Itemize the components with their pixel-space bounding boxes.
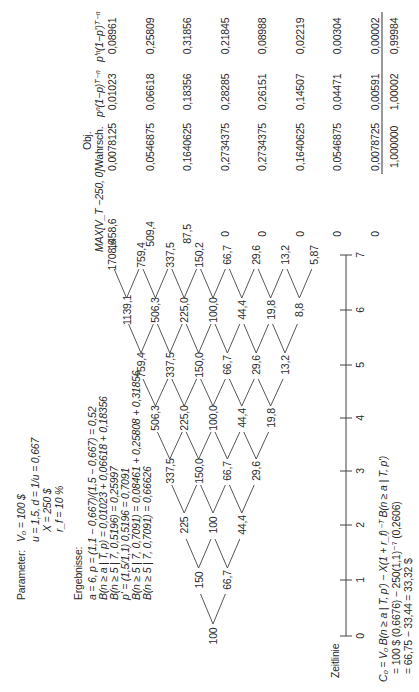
tree-node: 150,0 bbox=[194, 352, 205, 377]
tree-node: 19,8 bbox=[266, 300, 277, 320]
timeline-tick-label: 0 bbox=[355, 633, 366, 639]
table-cell: 0 bbox=[295, 231, 306, 237]
tree-node: 225,0 bbox=[179, 297, 190, 322]
table-cell: 0,1640625 bbox=[295, 123, 306, 171]
table-cell: 0,26151 bbox=[257, 74, 268, 111]
table-cell: 0,06618 bbox=[145, 74, 156, 111]
tree-node: 29,6 bbox=[251, 355, 262, 375]
table-cell: 0,0078125 bbox=[107, 123, 118, 171]
tree-node: 5,87 bbox=[309, 245, 320, 265]
header-ppn: p'ⁿ(1−p')ᵀ⁻ⁿ bbox=[94, 12, 105, 62]
table-cell: 0,28285 bbox=[220, 74, 231, 111]
tree-node: 150,0 bbox=[194, 458, 205, 483]
timeline-tick-label: 1 bbox=[355, 577, 366, 583]
tree-node: 13,2 bbox=[280, 355, 291, 375]
table-cell: 0,00002 bbox=[370, 18, 381, 55]
header-pn: pⁿ(1−p)ᵀ⁻ⁿ bbox=[94, 71, 105, 117]
header-max: MAX[V_T −250, 0] bbox=[94, 169, 105, 252]
tree-node: 44,4 bbox=[237, 515, 248, 535]
table-cell: 1458,6 bbox=[107, 219, 118, 250]
binomial-tree-lines bbox=[0, 0, 419, 692]
table-cell: 87,5 bbox=[182, 224, 193, 244]
tree-node: 66,7 bbox=[222, 570, 233, 590]
tree-node: 337,5 bbox=[165, 242, 176, 267]
table-cell: 0,2734375 bbox=[220, 123, 231, 171]
table-sum: 0,99984 bbox=[389, 18, 400, 55]
table-cell: 0,18356 bbox=[182, 74, 193, 111]
tree-node: 44,4 bbox=[237, 300, 248, 320]
table-cell: 0 bbox=[220, 231, 231, 237]
tree-node: 100,0 bbox=[208, 297, 219, 322]
table-cell: 0,0078725 bbox=[370, 123, 381, 171]
formula-line-2: = 100 $ (0,6676) − 250(1,1)⁻⁷ (0,2606) bbox=[391, 501, 402, 674]
table-cell: 0 bbox=[332, 231, 343, 237]
timeline-tick-label: 2 bbox=[355, 522, 366, 528]
timeline-tick-label: 3 bbox=[355, 468, 366, 474]
tree-node: 100,0 bbox=[208, 405, 219, 430]
timeline-tick-label: 4 bbox=[355, 415, 366, 421]
tree-node: 1139,1 bbox=[122, 295, 133, 325]
tree-node: 337,5 bbox=[165, 352, 176, 377]
table-cell: 0,00304 bbox=[332, 18, 343, 55]
timeline-label: Zeitlinie bbox=[330, 644, 341, 678]
table-cell: 0,0546875 bbox=[145, 123, 156, 171]
tree-node: 100 bbox=[208, 628, 219, 645]
table-cell: 0,31856 bbox=[182, 18, 193, 55]
tree-node: 66,7 bbox=[222, 355, 233, 375]
table-cell: 0,21845 bbox=[220, 18, 231, 55]
table-cell: 0,04471 bbox=[332, 74, 343, 111]
tree-node: 759,4 bbox=[136, 352, 147, 377]
tree-node: 19,8 bbox=[266, 408, 277, 428]
tree-node: 337,5 bbox=[165, 458, 176, 483]
tree-node: 100 bbox=[208, 517, 219, 534]
table-cell: 0,08961 bbox=[107, 18, 118, 55]
table-cell: 0 bbox=[370, 231, 381, 237]
table-cell: 0,1640625 bbox=[182, 123, 193, 171]
timeline-tick-label: 7 bbox=[355, 252, 366, 258]
table-cell: 0,02219 bbox=[295, 18, 306, 55]
table-cell: 0,14507 bbox=[295, 74, 306, 111]
binomial-option-pricing-page: Parameter: V₀ = 100 $ u = 1,5, d = 1/u =… bbox=[0, 0, 419, 692]
table-cell: 0,00591 bbox=[370, 74, 381, 111]
table-sum: 1,000000 bbox=[389, 126, 400, 168]
tree-node: 506,3 bbox=[150, 297, 161, 322]
table-cell: 509,4 bbox=[145, 221, 156, 246]
table-cell: 0,2734375 bbox=[257, 123, 268, 171]
tree-node: 13,2 bbox=[280, 245, 291, 265]
table-cell: 0,01023 bbox=[107, 74, 118, 111]
tree-node: 225,0 bbox=[179, 405, 190, 430]
tree-node: 225 bbox=[179, 517, 190, 534]
tree-node: 44,4 bbox=[237, 408, 248, 428]
tree-node: 150,2 bbox=[194, 242, 205, 267]
formula-line-1: C₀ = V₀ B(n ≥ a | T, p') − X(1 + r_f)⁻ᵀ … bbox=[378, 456, 389, 682]
timeline-tick-label: 6 bbox=[355, 307, 366, 313]
tree-node: 29,6 bbox=[251, 461, 262, 481]
timeline-tick-label: 5 bbox=[355, 362, 366, 368]
table-cell: 0,08988 bbox=[257, 18, 268, 55]
tree-node: 506,3 bbox=[150, 405, 161, 430]
tree-node: 150 bbox=[194, 572, 205, 589]
tree-node: 66,7 bbox=[222, 461, 233, 481]
header-obj: Obj. bbox=[82, 132, 93, 150]
tree-node: 29,6 bbox=[251, 245, 262, 265]
tree-node: 8,8 bbox=[294, 303, 305, 317]
table-cell: 0 bbox=[257, 231, 268, 237]
table-cell: 0,0546875 bbox=[332, 123, 343, 171]
header-probability: Wahrsch. bbox=[94, 127, 105, 169]
formula-line-3: = 66,75 − 33,44 = 33,32 $ bbox=[403, 558, 414, 674]
table-sum: 1,00002 bbox=[389, 74, 400, 111]
table-cell: 0,25809 bbox=[145, 18, 156, 55]
tree-node: 66,7 bbox=[222, 245, 233, 265]
